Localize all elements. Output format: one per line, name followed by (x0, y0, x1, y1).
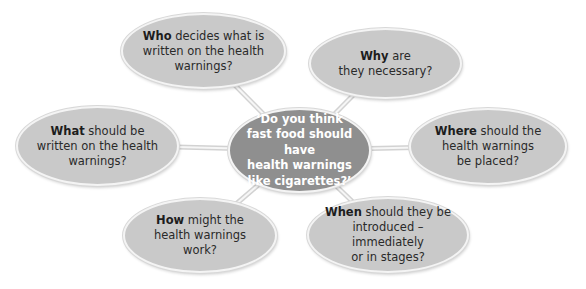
node-when-rest: should they be introduced – immediately … (351, 205, 451, 264)
node-who-keyword: Who (143, 29, 172, 43)
node-where-keyword: Where (435, 124, 477, 138)
node-what: What should be written on the health war… (16, 106, 179, 186)
node-when: When should they be introduced – immedia… (307, 197, 469, 273)
center-question: ‘Do you think fast food should have heal… (228, 108, 371, 193)
node-what-text: What should be written on the health war… (37, 124, 158, 169)
node-where-text: Where should the health warnings be plac… (435, 124, 541, 169)
mind-map: Who decides what is written on the healt… (0, 0, 586, 289)
node-where: Where should the health warnings be plac… (409, 108, 567, 185)
node-how-text: How might the health warnings work? (154, 213, 246, 258)
node-why: Why are they necessary? (309, 28, 462, 99)
node-what-keyword: What (51, 124, 85, 138)
node-how: How might the health warnings work? (123, 198, 277, 273)
node-who: Who decides what is written on the healt… (121, 13, 286, 89)
node-why-keyword: Why (360, 49, 388, 63)
node-when-keyword: When (325, 205, 362, 219)
node-when-text: When should they be introduced – immedia… (317, 205, 459, 265)
node-who-text: Who decides what is written on the healt… (143, 29, 264, 74)
node-why-text: Why are they necessary? (339, 49, 433, 79)
center-question-text: ‘Do you think fast food should have heal… (236, 112, 363, 190)
node-how-keyword: How (156, 213, 184, 227)
